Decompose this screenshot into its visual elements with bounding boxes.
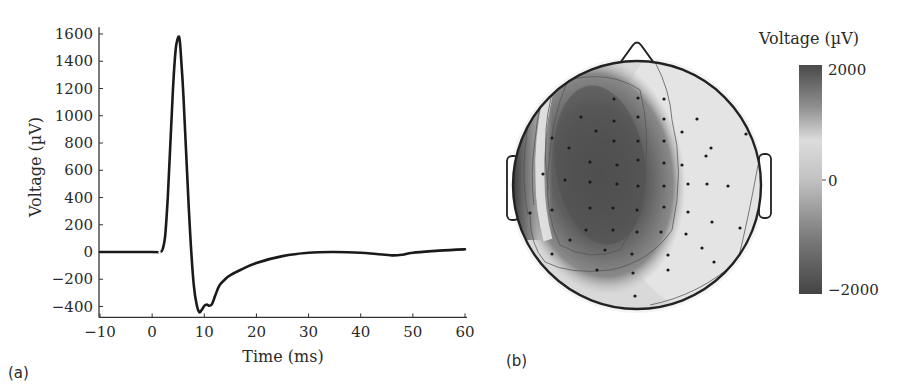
colorbar-tick-max: 2000 — [828, 61, 866, 79]
panel-b-scalp-map: Voltage (µV) 2000 0 −2000 (b) — [499, 29, 879, 370]
panel-a-line-chart: −400−20002004006008001000120014001600 −1… — [8, 25, 475, 382]
colorbar-tick-zero: 0 — [828, 172, 838, 190]
colorbar — [799, 65, 822, 294]
y-tick-label: 400 — [64, 189, 93, 207]
y-tick-label: 1000 — [55, 107, 93, 125]
x-axis-title: Time (ms) — [242, 347, 323, 366]
y-tick-label: 1400 — [55, 52, 93, 70]
panel-a-label: (a) — [8, 364, 29, 382]
y-tick-label: 800 — [64, 134, 93, 152]
colorbar-title: Voltage (µV) — [758, 29, 859, 48]
x-tick-label: 20 — [247, 323, 266, 341]
x-tick-label: 50 — [403, 323, 422, 341]
y-tick-label: 200 — [64, 216, 93, 234]
y-axis-title: Voltage (µV) — [26, 117, 45, 218]
y-tick-label: 600 — [64, 161, 93, 179]
x-tick-label: 0 — [147, 323, 157, 341]
x-axis: −100102030405060 — [84, 313, 474, 341]
voltage-trace — [100, 37, 465, 313]
y-tick-label: −200 — [52, 270, 93, 288]
x-tick-label: 60 — [455, 323, 474, 341]
y-tick-label: 0 — [83, 243, 93, 261]
x-tick-label: 10 — [195, 323, 214, 341]
y-tick-label: −400 — [52, 298, 93, 316]
y-tick-label: 1200 — [55, 80, 93, 98]
y-axis: −400−20002004006008001000120014001600 — [52, 25, 103, 317]
x-tick-label: 40 — [351, 323, 370, 341]
x-tick-label: −10 — [84, 323, 116, 341]
figure: −400−20002004006008001000120014001600 −1… — [0, 0, 904, 390]
y-tick-label: 1600 — [55, 25, 93, 43]
x-tick-label: 30 — [299, 323, 318, 341]
colorbar-tick-min: −2000 — [828, 281, 879, 299]
panel-b-label: (b) — [506, 352, 527, 370]
